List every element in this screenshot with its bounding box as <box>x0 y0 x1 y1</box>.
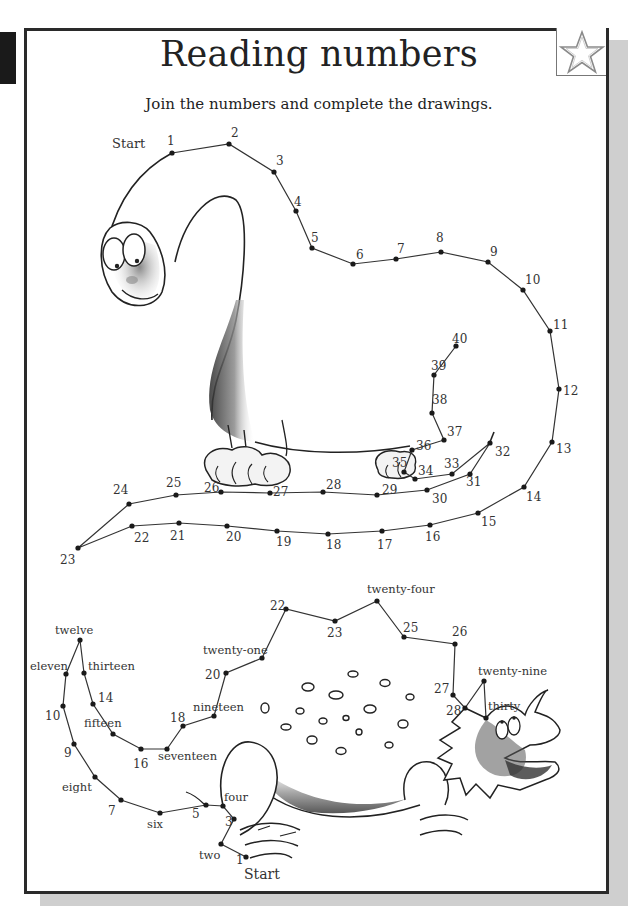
dot-label: 23 <box>60 553 75 567</box>
dot-point <box>483 715 488 720</box>
dot-point <box>71 741 76 746</box>
dot-point <box>487 440 492 445</box>
dot-point <box>374 492 379 497</box>
dot-point <box>475 510 480 515</box>
dot-point <box>556 386 561 391</box>
dot-label: 30 <box>432 492 447 506</box>
dot-label: 7 <box>108 804 116 818</box>
dot-label: 5 <box>192 807 200 821</box>
dot-label: 27 <box>273 485 288 499</box>
dot-label: 9 <box>64 746 72 760</box>
dot-point <box>110 731 115 736</box>
dot-point <box>393 256 398 261</box>
dot-point <box>401 469 406 474</box>
dot-label: four <box>224 790 249 804</box>
dot-label: 2 <box>231 126 239 140</box>
dot-label: 21 <box>170 529 185 543</box>
dot-label: 5 <box>311 231 319 245</box>
dot-label: twelve <box>55 623 93 637</box>
dot-point <box>332 618 337 623</box>
dot-label: 19 <box>276 535 291 549</box>
dot-label: 40 <box>452 332 467 346</box>
worksheet-illustrations: 1234567891011121314151617181920212223242… <box>0 0 638 913</box>
dot-label: 17 <box>377 538 392 552</box>
dot-point <box>267 490 272 495</box>
dot-label: 3 <box>225 815 233 829</box>
dot-label: 27 <box>434 682 449 696</box>
brachio-start-label: Start <box>112 136 146 151</box>
dot-point <box>60 703 65 708</box>
dot-label: 3 <box>276 154 284 168</box>
dot-label: thirteen <box>88 659 135 673</box>
dot-point <box>549 439 554 444</box>
dot-point <box>424 487 429 492</box>
dot-label: 37 <box>447 425 462 439</box>
dot-point <box>438 249 443 254</box>
dot-point <box>223 670 228 675</box>
dot-label: 22 <box>270 599 285 613</box>
dot-point <box>521 484 526 489</box>
dot-point <box>271 169 276 174</box>
dot-point <box>176 520 181 525</box>
dot-label: 8 <box>436 231 444 245</box>
brachiosaurus-dot-path: 1234567891011121314151617181920212223242… <box>60 126 578 567</box>
dot-point <box>211 713 216 718</box>
dot-point <box>226 141 231 146</box>
dot-label: eleven <box>30 659 69 673</box>
dot-label: twenty-nine <box>478 664 547 678</box>
dot-label: 33 <box>444 457 459 471</box>
dot-label: 20 <box>226 530 241 544</box>
stego-start-label: Start <box>244 866 280 882</box>
dot-point <box>203 802 208 807</box>
dot-point <box>126 501 131 506</box>
dot-label: 1 <box>167 134 175 148</box>
dot-label: fifteen <box>84 716 122 730</box>
dot-label: twenty-four <box>367 582 435 596</box>
dot-label: eight <box>62 780 92 794</box>
dot-label: 36 <box>416 439 431 453</box>
dot-label: 6 <box>356 248 364 262</box>
dot-point <box>449 471 454 476</box>
dot-point <box>431 372 436 377</box>
dot-label: 25 <box>403 621 418 635</box>
dot-point <box>157 810 162 815</box>
dot-point <box>90 701 95 706</box>
dot-label: 13 <box>556 442 571 456</box>
dot-point <box>350 261 355 266</box>
dot-label: 38 <box>432 393 447 407</box>
dot-point <box>452 641 457 646</box>
dot-label: nineteen <box>193 700 245 714</box>
dot-label: 1 <box>236 853 244 867</box>
dot-point <box>243 854 248 859</box>
dot-label: 15 <box>481 515 496 529</box>
dot-label: six <box>147 817 164 831</box>
dot-label: 28 <box>326 478 341 492</box>
dot-label: 20 <box>205 668 220 682</box>
dot-point <box>520 287 525 292</box>
dot-point <box>320 489 325 494</box>
dot-point <box>169 150 174 155</box>
dot-point <box>118 797 123 802</box>
dot-label: two <box>199 848 220 862</box>
dot-label: twenty-one <box>203 643 268 657</box>
dot-label: 18 <box>326 538 341 552</box>
dot-label: 25 <box>166 476 181 490</box>
dot-point <box>441 437 446 442</box>
dot-point <box>427 522 432 527</box>
dot-point <box>75 545 80 550</box>
dot-point <box>77 637 82 642</box>
dot-label: 14 <box>98 691 114 705</box>
dot-point <box>401 634 406 639</box>
dot-label: 26 <box>204 481 219 495</box>
dot-label: 26 <box>452 625 467 639</box>
dot-label: 34 <box>418 464 434 478</box>
dot-point <box>429 410 434 415</box>
dot-point <box>129 523 134 528</box>
dot-point <box>220 803 225 808</box>
brachio-eye-right <box>123 234 145 266</box>
dot-point <box>218 841 223 846</box>
dot-label: 4 <box>294 195 302 209</box>
dot-point <box>309 245 314 250</box>
dot-label: 23 <box>327 626 342 640</box>
dot-label: 24 <box>113 483 129 497</box>
